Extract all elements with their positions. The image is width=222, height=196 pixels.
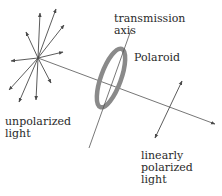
- unpolarized-starburst-icon: [9, 9, 64, 102]
- transmission-axis-line: [89, 30, 131, 148]
- polarized-double-arrow-icon: [155, 81, 182, 138]
- polaroid-ring: [91, 45, 131, 110]
- linearly-polarized-light-label: linearly polarized light: [141, 150, 193, 186]
- transmission-axis-label: transmission axis: [114, 13, 185, 37]
- unpolarized-light-label: unpolarized light: [5, 116, 71, 140]
- polaroid-label: Polaroid: [134, 52, 180, 64]
